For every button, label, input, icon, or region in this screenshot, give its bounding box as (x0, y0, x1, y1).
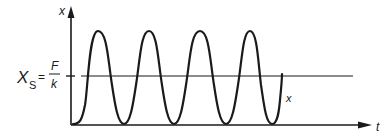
y-axis (68, 6, 75, 125)
curve-label: x (285, 92, 292, 104)
static-level-subscript: S (29, 79, 36, 91)
static-level-label: X S = F k (16, 59, 60, 91)
response-diagram: x t X S = F k x (0, 0, 392, 140)
x-axis (71, 122, 372, 129)
y-axis-label: x (58, 4, 66, 18)
static-level-denominator: k (51, 77, 58, 91)
static-level-numerator: F (51, 59, 59, 73)
x-axis-arrow-icon (358, 122, 372, 129)
static-level-symbol: X (16, 68, 29, 87)
x-axis-label: t (376, 120, 380, 134)
y-axis-arrow-icon (68, 6, 75, 18)
static-level-equals: = (38, 70, 45, 84)
response-curve (73, 31, 282, 124)
